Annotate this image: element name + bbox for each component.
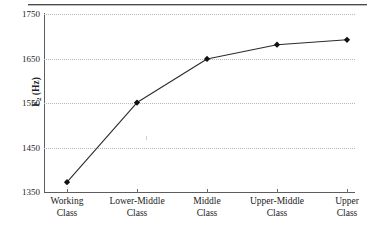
data-point-marker <box>204 56 210 62</box>
x-tick <box>137 189 138 193</box>
x-tick-label-line: Class <box>193 208 220 220</box>
x-tick-label-line: Working <box>50 196 83 206</box>
x-tick-label-line: Class <box>50 208 83 220</box>
x-tick-label: Upper-MiddleClass <box>250 196 304 219</box>
x-tick <box>67 189 68 193</box>
scan-artifact <box>146 136 147 140</box>
x-tick-label-line: Upper <box>335 196 359 206</box>
x-tick-label: Lower-MiddleClass <box>109 196 164 219</box>
x-tick <box>347 189 348 193</box>
x-tick-label-line: Lower-Middle <box>109 196 164 206</box>
x-tick <box>207 189 208 193</box>
data-point-marker <box>274 42 280 48</box>
x-tick <box>277 189 278 193</box>
x-tick-label-line: Class <box>335 208 359 220</box>
x-tick-label-line: Class <box>109 208 164 220</box>
x-tick-label-line: Class <box>250 208 304 220</box>
series-markers <box>64 37 350 186</box>
x-tick-label-line: Middle <box>193 196 220 206</box>
figure-container: F2 (Hz) 13501450155016501750 WorkingClas… <box>0 0 367 229</box>
series-layer <box>0 0 367 229</box>
x-tick-label: MiddleClass <box>193 196 220 219</box>
data-point-marker <box>344 37 350 43</box>
scan-artifact-2 <box>67 187 68 188</box>
x-tick-label: WorkingClass <box>50 196 83 219</box>
x-tick-label-line: Upper-Middle <box>250 196 304 206</box>
x-tick-label: UpperClass <box>335 196 359 219</box>
